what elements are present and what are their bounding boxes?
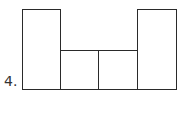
left-tall-rectangle (22, 9, 61, 90)
problem-number-label: 4. (4, 73, 17, 89)
right-tall-rectangle (137, 9, 177, 90)
middle-left-square (60, 50, 99, 90)
middle-right-square (98, 50, 138, 90)
